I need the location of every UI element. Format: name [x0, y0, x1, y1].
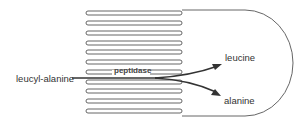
- microvillus: [86, 31, 182, 35]
- product-alanine-label: alanine: [224, 96, 255, 106]
- microvilli: [86, 11, 182, 113]
- microvillus: [86, 109, 182, 113]
- microvillus: [86, 41, 182, 45]
- microvillus: [86, 60, 182, 64]
- microvillus: [86, 11, 182, 15]
- microvillus: [86, 21, 182, 25]
- arrow-leucine: [155, 66, 218, 78]
- microvillus: [86, 50, 182, 54]
- substrate-label: leucyl-alanine: [16, 74, 74, 84]
- microvillus: [86, 99, 182, 103]
- cell-diagram: [0, 0, 305, 125]
- product-leucine-label: leucine: [225, 53, 255, 63]
- microvillus: [86, 80, 182, 84]
- microvillus: [86, 89, 182, 93]
- arrowhead-leucine-icon: [212, 64, 222, 70]
- enzyme-label: peptidase: [114, 67, 151, 75]
